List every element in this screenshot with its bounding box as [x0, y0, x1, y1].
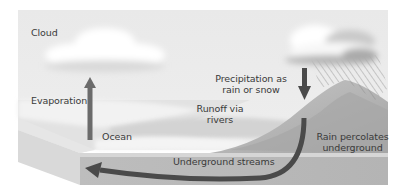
- precipitation-label-line2: rain or snow: [206, 84, 296, 95]
- cloud-label: Cloud: [31, 27, 58, 38]
- percolation-label-line2: underground: [310, 142, 395, 153]
- runoff-label: Runoff via rivers: [185, 103, 255, 125]
- runoff-label-line2: rivers: [185, 114, 255, 125]
- precipitation-label: Precipitation as rain or snow: [206, 73, 296, 95]
- precipitation-label-line1: Precipitation as: [206, 73, 296, 84]
- runoff-label-line1: Runoff via: [185, 103, 255, 114]
- ocean-label: Ocean: [102, 131, 132, 142]
- percolation-label-line1: Rain percolates: [310, 131, 395, 142]
- underground-streams-label: Underground streams: [173, 156, 275, 167]
- water-cycle-diagram: Cloud Evaporation Ocean Runoff via river…: [0, 0, 420, 193]
- evaporation-label: Evaporation: [31, 95, 87, 106]
- percolation-label: Rain percolates underground: [310, 131, 395, 153]
